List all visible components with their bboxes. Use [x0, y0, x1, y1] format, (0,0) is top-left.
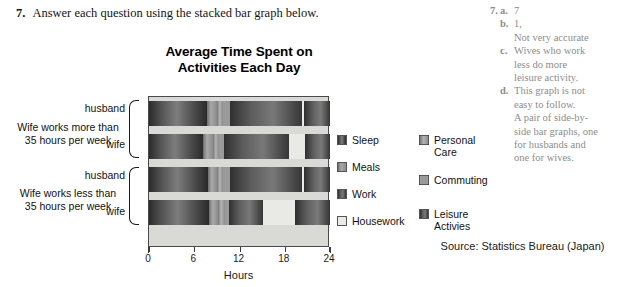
x-tick-label: 18	[278, 253, 289, 264]
brace-group-more	[129, 100, 139, 158]
legend-label-leisure-activies: LeisureActivies	[434, 208, 470, 232]
legend-label-meals: Meals	[352, 161, 380, 173]
legend-swatch-leisure-activies	[419, 209, 429, 219]
legend-label-personal-care: PersonalCare	[434, 134, 475, 158]
bar-segment-work	[229, 200, 263, 225]
bar-segment-leisure-activies	[304, 167, 330, 192]
answer-item: b.1,Not very accurate	[490, 17, 633, 44]
answer-item: c.Wives who workless do moreleisure acti…	[490, 44, 633, 84]
chart-title-line1: Average Time Spent on	[133, 44, 345, 60]
worksheet-page: 7.Answer each question using the stacked…	[0, 0, 633, 287]
x-tick-label: 6	[190, 253, 196, 264]
bar-segment-sleep	[149, 167, 208, 192]
answer-letter: a.	[500, 4, 508, 17]
group-label-more-line1: Wife works more than	[8, 121, 128, 134]
answer-line: less do more	[514, 58, 633, 71]
x-tick	[329, 247, 330, 252]
bar-row	[149, 200, 328, 225]
answer-line: for husbands and	[514, 138, 633, 151]
x-tick-label: 12	[233, 253, 244, 264]
x-tick-label: 0	[145, 253, 151, 264]
legend-label-line1: Meals	[352, 161, 380, 173]
question-line: 7.Answer each question using the stacked…	[16, 6, 476, 21]
x-tick	[285, 247, 286, 252]
chart-source: Source: Statistics Bureau (Japan)	[420, 240, 625, 252]
x-tick	[149, 247, 150, 252]
question-number: 7.	[16, 6, 25, 20]
answer-letter: b.	[500, 17, 508, 30]
answer-line: 7	[514, 4, 633, 17]
answer-line: leisure activity.	[514, 71, 633, 84]
answer-key: 7. a.7b.1,Not very accuratec.Wives who w…	[490, 4, 633, 165]
bar-row	[149, 167, 328, 192]
legend-label-line1: Sleep	[352, 134, 379, 146]
answer-item: d.This graph is noteasy to follow.A pair…	[490, 84, 633, 164]
bar-segment-commuting	[223, 167, 231, 192]
bar-segment-sleep	[149, 134, 203, 159]
answer-line: A pair of side-by-	[514, 111, 633, 124]
bar-segment-work	[230, 101, 302, 126]
answer-letter: c.	[500, 44, 507, 57]
chart-title-line2: Activities Each Day	[133, 60, 345, 76]
answer-line: Wives who work	[514, 44, 633, 57]
legend-label-line1: Housework	[352, 215, 405, 227]
legend-swatch-commuting	[419, 175, 429, 185]
legend-label-line1: Commuting	[434, 174, 488, 186]
x-tick-label: 24	[323, 253, 334, 264]
legend-label-work: Work	[352, 188, 376, 200]
plot-area	[148, 96, 329, 247]
bar-row	[149, 101, 328, 126]
row-label-wife-less: wife	[77, 205, 125, 217]
legend-swatch-meals	[337, 162, 347, 172]
bar-segment-housework	[263, 200, 295, 225]
bar-segment-housework	[289, 134, 306, 159]
chart-legend: SleepMealsWorkHouseworkPersonalCareCommu…	[337, 134, 497, 244]
row-label-husband-more: husband	[77, 102, 125, 114]
bar-segment-work	[224, 134, 289, 159]
bar-segment-meals	[207, 101, 217, 126]
bar-segment-meals	[203, 134, 213, 159]
question-text: Answer each question using the stacked b…	[32, 6, 318, 20]
x-tick	[240, 247, 241, 252]
bar-segment-commuting	[223, 101, 230, 126]
bar-segment-meals	[209, 200, 219, 225]
answer-letter: d.	[500, 84, 508, 97]
legend-swatch-personal-care	[419, 135, 429, 145]
legend-swatch-work	[337, 189, 347, 199]
legend-label-housework: Housework	[352, 215, 405, 227]
answer-list: a.7b.1,Not very accuratec.Wives who work…	[490, 4, 633, 165]
legend-swatch-housework	[337, 216, 347, 226]
bar-segment-leisure-activies	[304, 101, 330, 126]
bar-row	[149, 134, 328, 159]
answer-line: easy to follow.	[514, 98, 633, 111]
group-label-less-line1: Wife works less than	[8, 187, 128, 200]
bar-segment-leisure-activies	[305, 134, 330, 159]
bar-segment-work	[230, 167, 302, 192]
row-label-wife-more: wife	[77, 138, 125, 150]
legend-label-line2: Activies	[434, 220, 470, 232]
answer-line: one for wives.	[514, 151, 633, 164]
answer-line: 1,	[514, 17, 633, 30]
answer-line: side bar graphs, one	[514, 125, 633, 138]
legend-label-line1: Personal	[434, 134, 475, 146]
answer-line: Not very accurate	[514, 31, 633, 44]
bar-segment-meals	[208, 167, 217, 192]
legend-label-commuting: Commuting	[434, 174, 488, 186]
chart-title: Average Time Spent on Activities Each Da…	[133, 44, 345, 76]
legend-label-line2: Care	[434, 146, 475, 158]
answer-line: This graph is not	[514, 84, 633, 97]
bar-segment-personal-care	[218, 200, 225, 225]
legend-label-line1: Leisure	[434, 208, 470, 220]
bar-segment-sleep	[149, 101, 207, 126]
answer-item: a.7	[490, 4, 633, 17]
bar-segment-leisure-activies	[295, 200, 330, 225]
legend-swatch-sleep	[337, 135, 347, 145]
x-axis-label: Hours	[148, 269, 329, 281]
row-label-husband-less: husband	[77, 169, 125, 181]
brace-group-less	[129, 167, 139, 225]
bar-segment-sleep	[149, 200, 209, 225]
legend-label-line1: Work	[352, 188, 376, 200]
x-tick	[194, 247, 195, 252]
legend-label-sleep: Sleep	[352, 134, 379, 146]
